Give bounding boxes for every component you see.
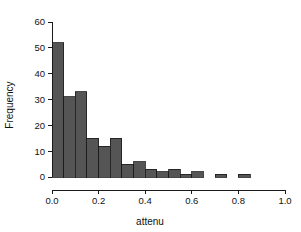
x-axis-title: attenu <box>136 216 164 227</box>
x-axis-tick-label: 0.8 <box>232 195 245 206</box>
histogram-bar <box>110 138 122 177</box>
y-axis-tick-label: 60 <box>34 16 45 27</box>
histogram-bar <box>122 164 134 177</box>
histogram-bar <box>215 174 227 177</box>
y-axis-tick-label: 40 <box>34 68 45 79</box>
x-axis-tick-label: 0.2 <box>92 195 105 206</box>
y-axis-tick-label: 50 <box>34 42 45 53</box>
histogram-bar <box>180 174 192 177</box>
histogram-bar <box>134 162 146 178</box>
histogram-bar <box>238 174 250 177</box>
histogram-bar <box>64 97 76 177</box>
histogram-bar <box>145 169 157 177</box>
x-axis-tick-label: 0.6 <box>185 195 198 206</box>
y-axis-tick-label: 10 <box>34 146 45 157</box>
histogram-bar <box>169 169 181 177</box>
histogram-bar <box>157 172 169 177</box>
x-axis-tick-label: 0.0 <box>45 195 58 206</box>
x-axis-tick-label: 0.4 <box>139 195 152 206</box>
histogram-bar <box>87 138 99 177</box>
histogram-bar <box>75 92 87 177</box>
y-axis-tick-label: 20 <box>34 120 45 131</box>
histogram-chart: 0102030405060 0.00.20.40.60.81.0 attenu … <box>0 0 301 232</box>
x-axis-tick-label: 1.0 <box>278 195 291 206</box>
y-axis-tick-label: 30 <box>34 94 45 105</box>
histogram-bar <box>52 43 64 177</box>
histogram-bar <box>99 146 111 177</box>
y-axis-title: Frequency <box>4 81 15 128</box>
histogram-svg: 0102030405060 0.00.20.40.60.81.0 attenu … <box>0 0 301 232</box>
y-axis-tick-label: 0 <box>40 171 45 182</box>
histogram-bar <box>192 172 204 177</box>
